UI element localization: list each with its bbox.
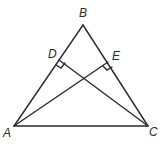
side-bc [83,25,148,126]
label-e: E [112,49,121,63]
side-ab [14,25,83,126]
triangle-diagram: B D E A C [0,0,167,144]
label-a: A [2,126,11,140]
label-d: D [48,47,57,61]
altitude-ae [14,62,108,126]
right-angle-mark-e [103,66,112,70]
label-b: B [79,6,87,20]
label-c: C [149,125,158,139]
altitude-cd [59,60,148,126]
